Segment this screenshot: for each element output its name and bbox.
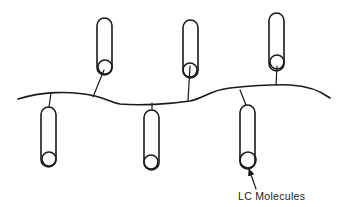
lc-molecule-bottom	[41, 93, 56, 167]
mesogen-rod	[240, 105, 255, 169]
mesogen-rod	[41, 107, 56, 167]
mesogen-end-circle	[144, 155, 158, 169]
annotation-arrow	[249, 169, 256, 189]
annotation-label: LC Molecules	[238, 190, 305, 202]
mesogen-rod	[183, 20, 198, 78]
lc-molecule-top	[183, 20, 198, 101]
lc-molecule-bottom	[240, 90, 256, 169]
molecule-spacer-stem	[240, 90, 246, 105]
polymer-backbone	[18, 85, 330, 105]
molecule-spacer-stem	[49, 93, 51, 107]
lc-molecule-bottom	[144, 103, 159, 170]
mesogen-rod	[144, 110, 159, 170]
lc-molecule-top	[269, 13, 284, 85]
mesogen-rod	[97, 18, 112, 75]
lc-molecule-top	[93, 18, 112, 97]
molecule-spacer-stem	[188, 66, 190, 101]
mesogen-rod	[269, 13, 284, 71]
lc-polymer-diagram: LC Molecules	[0, 0, 343, 207]
mesogen-end-circle	[240, 152, 256, 168]
mesogen-end-circle	[42, 152, 56, 166]
lc-molecules-group	[41, 13, 284, 170]
mesogen-end-circle	[98, 60, 112, 74]
